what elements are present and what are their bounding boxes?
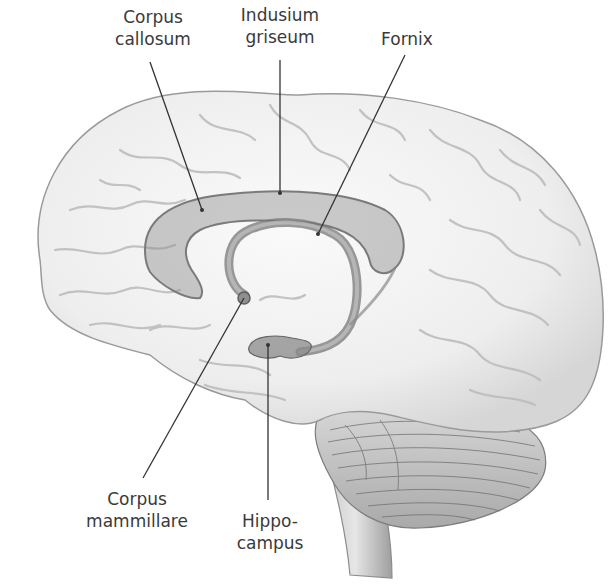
label-indusium-griseum-line1: Indusium <box>232 4 328 26</box>
label-fornix-line1: Fornix <box>372 28 442 50</box>
brain-diagram: Corpus callosum Indusium griseum Fornix … <box>0 0 614 585</box>
label-hippocampus-line2: campus <box>230 532 310 554</box>
hippocampus-shape <box>249 336 312 358</box>
label-corpus-callosum-line2: callosum <box>108 28 198 50</box>
label-corpus-mammillare-line1: Corpus <box>82 488 192 510</box>
label-corpus-mammillare: Corpus mammillare <box>82 488 192 532</box>
label-hippocampus: Hippo- campus <box>230 510 310 554</box>
cerebrum <box>38 91 603 432</box>
label-indusium-griseum: Indusium griseum <box>232 4 328 48</box>
label-corpus-callosum: Corpus callosum <box>108 6 198 50</box>
label-corpus-mammillare-line2: mammillare <box>82 510 192 532</box>
label-corpus-callosum-line1: Corpus <box>108 6 198 28</box>
label-indusium-griseum-line2: griseum <box>232 26 328 48</box>
label-hippocampus-line1: Hippo- <box>230 510 310 532</box>
label-fornix: Fornix <box>372 28 442 50</box>
